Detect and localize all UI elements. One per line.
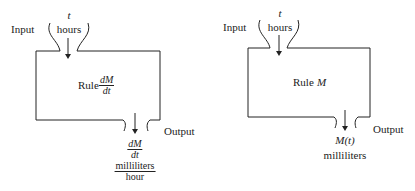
rule-derivative: dM dt (99, 75, 114, 96)
input-variable: t (278, 8, 281, 19)
output-value: M(t) (335, 135, 355, 146)
rule-symbol: M (317, 77, 326, 88)
input-variable: t (67, 10, 70, 21)
rule-label: Rule (293, 77, 314, 88)
input-units: hours (57, 24, 81, 35)
rule-label: Rule (78, 80, 99, 91)
output-label: Output (164, 126, 195, 137)
input-label: Input (11, 24, 34, 35)
output-units: milliliters (324, 150, 367, 161)
output-units: milliliters hour (115, 161, 156, 182)
input-label: Input (223, 22, 246, 33)
input-units: hours (268, 22, 292, 33)
output-derivative: dM dt (127, 139, 142, 160)
output-label: Output (373, 124, 404, 135)
